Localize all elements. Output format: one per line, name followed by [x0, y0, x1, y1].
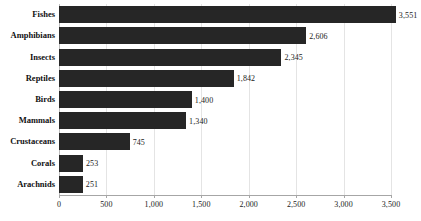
x-tick-mark: [344, 195, 345, 198]
category-label-mammals: Mammals: [19, 112, 55, 129]
x-tick-label: 500: [100, 200, 112, 209]
bar-insects[interactable]: [59, 49, 281, 66]
bar-row: 1,842: [59, 70, 391, 87]
category-label-crustaceans: Crustaceans: [10, 133, 55, 150]
bar-arachnids[interactable]: [59, 176, 83, 193]
bar-mammals[interactable]: [59, 112, 186, 129]
bar-row: 1,400: [59, 91, 391, 108]
x-tick-mark: [154, 195, 155, 198]
bar-series: 3,5512,6062,3451,8421,4001,340745253251: [59, 4, 391, 195]
bar-value-label: 3,551: [396, 10, 418, 19]
category-label-insects: Insects: [30, 49, 55, 66]
category-label-fishes: Fishes: [32, 6, 55, 23]
x-tick-label: 1,000: [145, 200, 164, 209]
x-axis: 05001,0001,5002,0002,5003,0003,500: [59, 195, 391, 221]
bar-corals[interactable]: [59, 155, 83, 172]
x-tick-mark: [201, 195, 202, 198]
bar-row: 251: [59, 176, 391, 193]
x-tick-label: 0: [57, 200, 61, 209]
bar-value-label: 2,606: [306, 31, 328, 40]
bar-row: 745: [59, 133, 391, 150]
bar-value-label: 745: [130, 137, 145, 146]
x-tick-mark: [296, 195, 297, 198]
category-axis: FishesAmphibiansInsectsReptilesBirdsMamm…: [0, 4, 57, 195]
x-tick-label: 2,000: [239, 200, 258, 209]
bar-row: 2,345: [59, 49, 391, 66]
x-tick-label: 3,000: [334, 200, 353, 209]
category-label-amphibians: Amphibians: [11, 27, 55, 44]
bar-row: 3,551: [59, 6, 391, 23]
bar-row: 253: [59, 155, 391, 172]
bar-birds[interactable]: [59, 91, 192, 108]
category-label-reptiles: Reptiles: [26, 70, 55, 87]
x-tick-mark: [249, 195, 250, 198]
category-label-arachnids: Arachnids: [17, 176, 55, 193]
gridline-3500: [391, 4, 392, 195]
x-tick-mark: [106, 195, 107, 198]
bar-amphibians[interactable]: [59, 27, 306, 44]
plot-area: 3,5512,6062,3451,8421,4001,340745253251: [59, 4, 391, 195]
bar-crustaceans[interactable]: [59, 133, 130, 150]
x-tick-mark: [391, 195, 392, 198]
bar-value-label: 1,400: [192, 95, 214, 104]
bar-row: 1,340: [59, 112, 391, 129]
bar-fishes[interactable]: [59, 6, 396, 23]
category-label-corals: Corals: [31, 155, 55, 172]
x-tick-label: 1,500: [192, 200, 211, 209]
category-label-birds: Birds: [35, 91, 55, 108]
bar-value-label: 1,340: [186, 116, 208, 125]
bar-value-label: 253: [83, 159, 98, 168]
x-tick-label: 2,500: [287, 200, 306, 209]
bar-value-label: 251: [83, 180, 98, 189]
x-tick-mark: [59, 195, 60, 198]
bar-value-label: 2,345: [281, 53, 303, 62]
bar-row: 2,606: [59, 27, 391, 44]
bar-chart: FishesAmphibiansInsectsReptilesBirdsMamm…: [0, 0, 421, 221]
bar-reptiles[interactable]: [59, 70, 234, 87]
bar-value-label: 1,842: [234, 74, 256, 83]
x-tick-label: 3,500: [382, 200, 401, 209]
